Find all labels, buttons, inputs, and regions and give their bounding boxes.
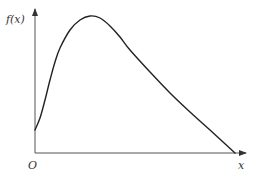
y-axis-label: f(x) <box>6 14 25 25</box>
function-curve <box>35 16 235 153</box>
origin-label: O <box>28 160 37 171</box>
x-axis-label: x <box>238 160 244 171</box>
function-plot <box>0 0 260 177</box>
